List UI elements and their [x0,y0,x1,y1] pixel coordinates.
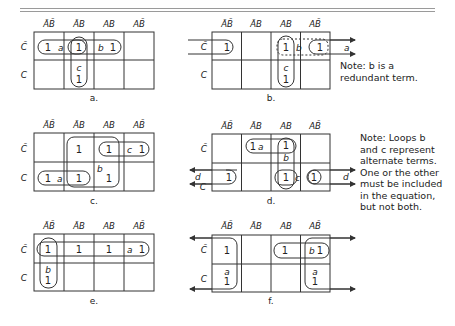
cell-value: 1 [224,276,230,287]
cell-value: 1 [45,42,51,53]
cell-value: 1 [139,144,145,155]
loop-label: a [312,267,318,277]
loop-label: d [343,172,349,182]
caption: c. [90,196,98,206]
row-header: C̄ [201,244,208,255]
cell-value: 1 [106,173,112,184]
cell-value: 1 [76,144,82,155]
col-header: AB̄ [308,120,321,131]
caption: f. [268,296,273,306]
kmap-c: ĀB̄ ĀB AB AB̄ C̄ C 1 1 1 1 1 1 a b c c. [21,119,154,206]
cell-value: 1 [76,42,82,53]
caption: e. [90,296,98,306]
cell-value: 1 [317,245,323,256]
kmap-d: ĀB̄ ĀB AB AB̄ C̄ C 1 1 1 1 1 [190,120,355,206]
loop-label: b [98,43,104,53]
cell-value: 1 [224,42,230,53]
cell-value: 1 [283,140,289,151]
col-header: AB̄ [308,220,321,231]
cell-value: 1 [45,244,51,255]
cell-value: 1 [76,244,82,255]
caption: d. [267,196,276,206]
loop-label: c [284,63,289,73]
loop-label: b [283,153,289,163]
col-header: ĀB [249,121,262,131]
loop-label: a [127,245,133,255]
col-header: ĀB [72,221,85,231]
cell-value: 1 [250,141,256,152]
row-header: C̄ [21,143,28,154]
cell-value: 1 [106,144,112,155]
cell-value: 1 [226,172,232,183]
col-header: ĀB̄ [42,119,55,130]
col-header: AB̄ [132,119,145,130]
kmap-f: ĀB̄ ĀB AB AB̄ C̄ C 1 1 1 1 1 a a [190,220,355,306]
loop-label: d [195,172,201,182]
loop-label: a [57,174,63,184]
row-header: C [201,274,208,284]
row-header: C̄ [201,143,208,154]
col-header: AB [102,221,115,231]
col-header: ĀB [249,221,262,231]
cell-value: 1 [224,245,230,256]
cell-value: 1 [282,245,288,256]
col-header: ĀB̄ [220,120,233,131]
row-header: C̄ [21,244,28,255]
note-map-d: Note: Loops b and c represent alternate … [360,132,442,213]
cell-value: 1 [283,42,289,53]
kmap-b: ĀB̄ ĀB AB AB̄ C̄ C 1 1 1 1 a b c b. [188,18,355,103]
loop-label: c [127,145,132,155]
col-header: AB̄ [132,18,145,29]
caption: b. [267,93,276,103]
cell-value: 1 [76,173,82,184]
loop-label: a [224,267,230,277]
col-header: AB [102,19,115,29]
loop-label: b [97,164,103,174]
note-map-b: Note: b is a redundant term. [340,60,418,83]
cell-value: 1 [139,244,145,255]
loop-label: b [45,265,51,275]
col-header: ĀB̄ [220,220,233,231]
col-header: ĀB̄ [42,18,55,29]
row-header: C [21,273,28,283]
cell-value: 1 [45,173,51,184]
caption: a. [90,93,98,103]
col-header: AB̄ [132,220,145,231]
loop-label: c [77,63,82,73]
row-header: C [21,70,28,80]
cell-value: 1 [106,244,112,255]
col-header: ĀB [249,19,262,29]
col-header: AB [279,121,292,131]
cell-value: 1 [76,74,82,85]
cell-value: 1 [110,42,116,53]
col-header: AB̄ [308,18,321,29]
col-header: ĀB̄ [220,18,233,29]
loop-label: a [344,43,350,53]
cell-value: 1 [317,42,323,53]
col-header: AB [102,120,115,130]
kmap-e: ĀB̄ ĀB AB AB̄ C̄ C 1 1 1 1 1 a b e. [21,220,154,306]
cell-value: 1 [283,74,289,85]
loop-label: b [309,246,315,256]
loop-label: a [258,142,264,152]
row-header: C̄ [201,41,208,52]
loop-label: c [295,173,300,183]
col-header: ĀB [72,19,85,29]
cell-value: 1 [311,172,317,183]
cell-value: 1 [283,172,289,183]
cell-value: 1 [45,275,51,286]
loop-label: b [296,43,302,53]
row-header: C [21,173,28,183]
col-header: ĀB̄ [42,220,55,231]
row-header: C [201,70,208,80]
kmap-a: ĀB̄ ĀB AB AB̄ C̄ C 1 1 1 1 a b c a. [21,18,154,103]
col-header: ĀB [72,120,85,130]
col-header: AB [279,221,292,231]
row-header: C̄ [21,41,28,52]
col-header: AB [279,19,292,29]
cell-value: 1 [312,276,318,287]
loop-label: a [58,43,64,53]
